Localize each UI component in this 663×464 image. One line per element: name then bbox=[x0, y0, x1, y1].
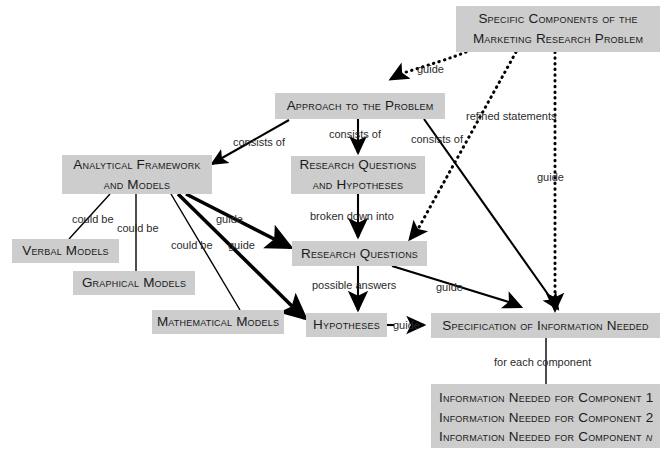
edge-label-guide-top: guide bbox=[417, 63, 444, 76]
node-specific-components-line2: Marketing Research Problem bbox=[473, 29, 643, 49]
node-specific-components[interactable]: Specific Components of the Marketing Res… bbox=[456, 6, 660, 52]
edge-label-consists-of-3: consists of bbox=[411, 133, 463, 146]
node-approach-to-the-problem[interactable]: Approach to the Problem bbox=[275, 93, 445, 119]
node-specification-of-information-needed[interactable]: Specification of Information Needed bbox=[431, 313, 660, 338]
node-approach-label: Approach to the Problem bbox=[287, 96, 434, 116]
edge-label-guide-framework-to-hypotheses: guide bbox=[228, 239, 255, 252]
edge-label-guide-research-questions-to-specification: guide bbox=[436, 281, 463, 294]
edge-label-for-each-component: for each component bbox=[494, 356, 591, 369]
components-list-item-3: Information Needed for Component n bbox=[439, 427, 652, 447]
edge-label-guide-hypotheses-to-specification: guide bbox=[393, 319, 420, 332]
node-research-questions-and-hypotheses[interactable]: Research Questions and Hypotheses bbox=[291, 156, 425, 194]
node-analytical-framework-and-models[interactable]: Analytical Framework and Models bbox=[62, 155, 212, 194]
node-hypotheses-label: Hypotheses bbox=[313, 315, 380, 335]
edge-label-refined-statements-line2: statements bbox=[503, 110, 557, 122]
edge-label-guide-right-vertical: guide bbox=[537, 171, 564, 184]
node-graphical-models[interactable]: Graphical Models bbox=[73, 271, 195, 295]
node-specific-components-line1: Specific Components of the bbox=[473, 9, 643, 29]
components-list-item-3-text: Information Needed for Component bbox=[439, 429, 646, 444]
components-list-item-1: Information Needed for Component 1 bbox=[439, 388, 652, 408]
node-research-questions-label: Research Questions bbox=[301, 244, 418, 264]
components-list-item-3-index: n bbox=[646, 429, 653, 444]
components-list-item-2: Information Needed for Component 2 bbox=[439, 408, 652, 428]
edge-label-refined-statements-line1: refined bbox=[466, 110, 500, 122]
node-hypotheses[interactable]: Hypotheses bbox=[306, 313, 387, 337]
node-graphical-models-label: Graphical Models bbox=[82, 273, 186, 293]
edge-label-refined-statements: refined statements bbox=[466, 110, 534, 123]
edge-label-consists-of-2: consists of bbox=[329, 128, 381, 141]
edge-label-could-be-3: could be bbox=[171, 239, 213, 252]
diagram-canvas: Specific Components of the Marketing Res… bbox=[0, 0, 663, 464]
node-analytical-framework-line2: and Models bbox=[73, 175, 200, 195]
node-verbal-models-label: Verbal Models bbox=[22, 241, 109, 261]
edge-label-guide-framework-to-research-questions: guide bbox=[216, 213, 243, 226]
edge-label-consists-of-1: consists of bbox=[233, 136, 285, 149]
node-rq-hypotheses-line2: and Hypotheses bbox=[299, 175, 416, 195]
node-specification-label: Specification of Information Needed bbox=[442, 316, 648, 336]
edge-label-possible-answers: possible answers bbox=[312, 279, 396, 292]
edge-label-could-be-2: could be bbox=[117, 222, 159, 235]
node-mathematical-models[interactable]: Mathematical Models bbox=[152, 310, 284, 334]
node-mathematical-models-label: Mathematical Models bbox=[157, 312, 279, 332]
node-rq-hypotheses-line1: Research Questions bbox=[299, 155, 416, 175]
node-verbal-models[interactable]: Verbal Models bbox=[12, 239, 119, 263]
edge-label-broken-down-into: broken down into bbox=[310, 210, 394, 223]
node-components-list[interactable]: Information Needed for Component 1 Infor… bbox=[431, 384, 660, 448]
edge-label-could-be-1: could be bbox=[72, 213, 114, 226]
node-research-questions[interactable]: Research Questions bbox=[292, 241, 427, 266]
node-analytical-framework-line1: Analytical Framework bbox=[73, 155, 200, 175]
